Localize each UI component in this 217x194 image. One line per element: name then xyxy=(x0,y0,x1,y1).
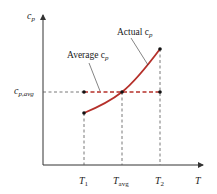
point-t2-avg xyxy=(158,90,162,94)
x-tick-tavg: Tavg xyxy=(113,175,129,188)
point-t2-curve xyxy=(158,47,162,51)
y-axis-label: cp xyxy=(27,10,35,23)
average-leader-line xyxy=(89,63,100,91)
cp-vs-temperature-diagram: cp T cp,avg T1 Tavg T2 Actual cp Average… xyxy=(0,0,217,194)
point-tavg xyxy=(120,90,124,94)
x-tick-t1: T1 xyxy=(79,175,89,188)
actual-leader-line xyxy=(131,38,148,65)
y-tick-cp-avg: cp,avg xyxy=(14,85,34,98)
point-t1-curve xyxy=(82,111,86,115)
average-cp-label: Average cp xyxy=(67,50,109,62)
actual-cp-label: Actual cp xyxy=(117,27,153,39)
x-tick-t2: T2 xyxy=(155,175,165,188)
point-t1-avg xyxy=(82,90,86,94)
x-axis-label: T xyxy=(195,175,202,186)
